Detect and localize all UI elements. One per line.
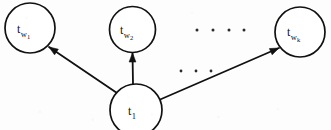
- node-twk-label-base: t: [287, 25, 290, 39]
- figure-container: tw1tw2twkt1: [0, 0, 331, 130]
- node-twk-circle[interactable]: [275, 7, 325, 57]
- edge-t1-to-twk-line: [159, 48, 279, 100]
- nodes-group: [5, 3, 325, 130]
- edge-t1-to-tw1-arrowhead: [49, 47, 58, 55]
- node-twk-label-sub2: k: [297, 36, 300, 43]
- node-twk-label: twk: [287, 23, 300, 39]
- graph-diagram: [0, 0, 331, 130]
- ellipsis-upper-dot: [243, 29, 246, 32]
- ellipsis-lower-dot: [210, 70, 213, 73]
- ellipsis-upper-dot: [196, 29, 199, 32]
- ellipsis-group: [180, 29, 246, 73]
- node-tw2-label: tw2: [120, 21, 133, 37]
- node-tw2-label-base: t: [120, 23, 123, 37]
- node-tw1-label: tw1: [17, 20, 30, 36]
- node-t1-label-base: t: [128, 104, 131, 118]
- node-tw1-circle[interactable]: [5, 3, 55, 53]
- ellipsis-lower-dot: [195, 70, 198, 73]
- edge-t1-to-tw1[interactable]: [49, 47, 117, 93]
- edge-t1-to-twk[interactable]: [159, 48, 279, 100]
- edges-group: [49, 47, 279, 100]
- ellipsis-upper-dot: [212, 29, 215, 32]
- edge-t1-to-tw2-arrowhead: [129, 53, 136, 62]
- node-tw2-label-sub2: 2: [130, 34, 133, 41]
- node-tw1-label-sub2: 1: [27, 33, 30, 40]
- node-t1-label-sub1: 1: [132, 111, 136, 121]
- ellipsis-lower: [180, 70, 213, 73]
- node-tw1-label-base: t: [17, 22, 20, 36]
- edge-t1-to-tw2[interactable]: [129, 53, 136, 84]
- edge-t1-to-tw1-line: [49, 47, 117, 93]
- node-t1-label: t1: [128, 102, 136, 118]
- ellipsis-lower-dot: [180, 70, 183, 73]
- edge-t1-to-twk-arrowhead: [269, 48, 279, 55]
- node-t1-circle[interactable]: [110, 84, 162, 130]
- ellipsis-upper: [196, 29, 246, 32]
- ellipsis-upper-dot: [228, 29, 231, 32]
